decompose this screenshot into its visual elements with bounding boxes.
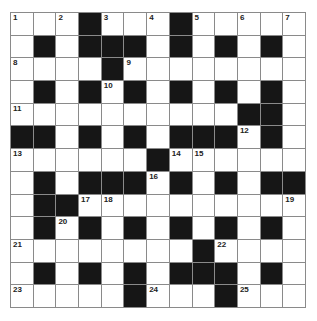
letter-cell[interactable]: 12 <box>238 126 260 148</box>
letter-cell[interactable] <box>238 240 260 262</box>
letter-cell[interactable]: 10 <box>102 81 124 103</box>
letter-cell[interactable] <box>124 240 146 262</box>
letter-cell[interactable] <box>283 263 305 285</box>
letter-cell[interactable] <box>124 195 146 217</box>
letter-cell[interactable]: 19 <box>283 195 305 217</box>
letter-cell[interactable]: 1 <box>11 13 33 35</box>
letter-cell[interactable] <box>238 81 260 103</box>
letter-cell[interactable] <box>124 13 146 35</box>
letter-cell[interactable] <box>283 58 305 80</box>
letter-cell[interactable] <box>34 240 56 262</box>
letter-cell[interactable] <box>283 126 305 148</box>
letter-cell[interactable] <box>215 13 237 35</box>
letter-cell[interactable] <box>283 36 305 58</box>
letter-cell[interactable] <box>102 263 124 285</box>
letter-cell[interactable] <box>261 58 283 80</box>
letter-cell[interactable] <box>34 13 56 35</box>
letter-cell[interactable] <box>283 81 305 103</box>
letter-cell[interactable] <box>215 58 237 80</box>
letter-cell[interactable] <box>34 104 56 126</box>
letter-cell[interactable]: 8 <box>11 58 33 80</box>
letter-cell[interactable]: 20 <box>56 217 78 239</box>
letter-cell[interactable] <box>56 104 78 126</box>
letter-cell[interactable] <box>193 104 215 126</box>
letter-cell[interactable]: 11 <box>11 104 33 126</box>
letter-cell[interactable] <box>147 217 169 239</box>
letter-cell[interactable] <box>11 36 33 58</box>
letter-cell[interactable] <box>193 81 215 103</box>
letter-cell[interactable] <box>124 149 146 171</box>
letter-cell[interactable]: 6 <box>238 13 260 35</box>
letter-cell[interactable] <box>261 240 283 262</box>
letter-cell[interactable] <box>283 104 305 126</box>
letter-cell[interactable]: 5 <box>193 13 215 35</box>
letter-cell[interactable]: 17 <box>79 195 101 217</box>
letter-cell[interactable] <box>193 195 215 217</box>
letter-cell[interactable] <box>56 58 78 80</box>
letter-cell[interactable] <box>79 58 101 80</box>
letter-cell[interactable] <box>11 195 33 217</box>
letter-cell[interactable]: 16 <box>147 172 169 194</box>
letter-cell[interactable]: 22 <box>215 240 237 262</box>
letter-cell[interactable] <box>102 240 124 262</box>
letter-cell[interactable]: 3 <box>102 13 124 35</box>
letter-cell[interactable] <box>34 58 56 80</box>
letter-cell[interactable] <box>215 104 237 126</box>
letter-cell[interactable]: 23 <box>11 285 33 307</box>
letter-cell[interactable] <box>56 285 78 307</box>
letter-cell[interactable] <box>56 149 78 171</box>
letter-cell[interactable] <box>124 104 146 126</box>
letter-cell[interactable] <box>170 195 192 217</box>
letter-cell[interactable] <box>147 58 169 80</box>
letter-cell[interactable] <box>238 263 260 285</box>
letter-cell[interactable] <box>193 285 215 307</box>
letter-cell[interactable] <box>238 217 260 239</box>
letter-cell[interactable] <box>11 172 33 194</box>
letter-cell[interactable] <box>238 195 260 217</box>
letter-cell[interactable] <box>261 195 283 217</box>
letter-cell[interactable] <box>283 285 305 307</box>
letter-cell[interactable] <box>170 58 192 80</box>
letter-cell[interactable]: 2 <box>56 13 78 35</box>
letter-cell[interactable] <box>238 149 260 171</box>
letter-cell[interactable]: 9 <box>124 58 146 80</box>
letter-cell[interactable]: 14 <box>170 149 192 171</box>
letter-cell[interactable] <box>147 195 169 217</box>
letter-cell[interactable]: 21 <box>11 240 33 262</box>
letter-cell[interactable] <box>102 104 124 126</box>
letter-cell[interactable] <box>79 104 101 126</box>
letter-cell[interactable] <box>11 217 33 239</box>
letter-cell[interactable] <box>56 126 78 148</box>
letter-cell[interactable] <box>147 104 169 126</box>
letter-cell[interactable] <box>79 149 101 171</box>
letter-cell[interactable] <box>147 126 169 148</box>
letter-cell[interactable] <box>79 285 101 307</box>
letter-cell[interactable]: 25 <box>238 285 260 307</box>
letter-cell[interactable]: 24 <box>147 285 169 307</box>
letter-cell[interactable] <box>147 36 169 58</box>
letter-cell[interactable] <box>193 172 215 194</box>
letter-cell[interactable] <box>193 36 215 58</box>
letter-cell[interactable] <box>193 58 215 80</box>
letter-cell[interactable] <box>147 240 169 262</box>
letter-cell[interactable] <box>102 149 124 171</box>
letter-cell[interactable] <box>34 285 56 307</box>
letter-cell[interactable] <box>102 285 124 307</box>
letter-cell[interactable] <box>11 81 33 103</box>
letter-cell[interactable] <box>11 263 33 285</box>
letter-cell[interactable] <box>261 285 283 307</box>
letter-cell[interactable] <box>283 149 305 171</box>
letter-cell[interactable] <box>147 263 169 285</box>
letter-cell[interactable] <box>170 285 192 307</box>
letter-cell[interactable] <box>238 172 260 194</box>
letter-cell[interactable] <box>261 149 283 171</box>
letter-cell[interactable] <box>283 217 305 239</box>
letter-cell[interactable] <box>238 58 260 80</box>
letter-cell[interactable] <box>102 126 124 148</box>
letter-cell[interactable] <box>34 149 56 171</box>
letter-cell[interactable]: 15 <box>193 149 215 171</box>
letter-cell[interactable] <box>215 149 237 171</box>
letter-cell[interactable] <box>56 263 78 285</box>
letter-cell[interactable] <box>170 240 192 262</box>
letter-cell[interactable] <box>170 104 192 126</box>
